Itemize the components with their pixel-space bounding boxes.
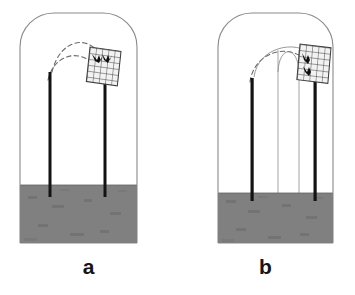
net-perch-a [104,75,107,197]
panel-a-label: a [0,256,177,277]
panel-b: b [177,0,354,295]
net-perch-b [314,72,317,201]
mist-net-b [297,44,331,83]
panel-a-illustration [0,0,177,295]
panel-a: a [0,0,177,295]
launch-perch-a [49,72,52,197]
mist-net-a [86,47,121,86]
panel-b-illustration [177,0,355,295]
launch-perch-b [251,78,254,201]
panel-b-label: b [177,256,354,277]
figure-container: a [0,0,355,295]
